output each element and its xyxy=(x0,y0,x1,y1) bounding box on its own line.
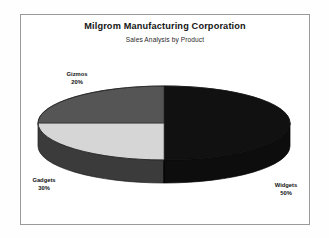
pie-label-gadgets-percent: 30% xyxy=(15,184,73,192)
pie-slice-top-gadgets xyxy=(38,86,164,123)
pie-label-gizmos: Gizmos 20% xyxy=(49,70,105,87)
chart-canvas: Milgrom Manufacturing Corporation Sales … xyxy=(0,0,329,238)
pie-label-gadgets: Gadgets 30% xyxy=(15,176,73,193)
pie-label-widgets-name: Widgets xyxy=(275,182,298,188)
pie-label-gadgets-name: Gadgets xyxy=(32,177,55,183)
pie-label-gizmos-name: Gizmos xyxy=(67,71,88,77)
pie-label-widgets: Widgets 50% xyxy=(258,181,314,198)
pie-label-gizmos-percent: 20% xyxy=(49,78,105,86)
pie-label-widgets-percent: 50% xyxy=(258,189,314,197)
